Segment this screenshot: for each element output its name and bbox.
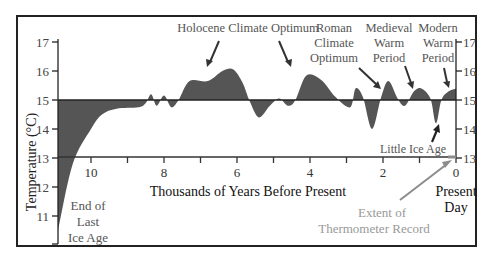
y-axis-label: Temperature (°C) (24, 113, 40, 212)
roman-arrow (359, 68, 376, 84)
roman-label: Roman Climate Optimum (310, 21, 358, 65)
thermometer-label: Extent of Thermometer Record (318, 205, 430, 236)
x-tick-label: 8 (161, 165, 168, 180)
little-ice-age-label: Little Ice Age (380, 142, 446, 156)
little-ice-age-arrow (432, 130, 437, 142)
svg-text:Optimum: Optimum (310, 51, 358, 65)
svg-text:Climate: Climate (314, 36, 354, 50)
y-tick-label: 17 (36, 35, 50, 50)
arrow-head-icon (407, 81, 414, 89)
svg-text:Period: Period (422, 51, 455, 65)
svg-text:Last: Last (77, 214, 100, 229)
y-tick-label-right: 15 (463, 93, 476, 108)
svg-text:Roman: Roman (316, 21, 353, 35)
ice-age-label: End of Last Ice Age (68, 198, 108, 245)
svg-text:Thermometer Record: Thermometer Record (318, 221, 430, 236)
x-tick-label: 2 (380, 165, 387, 180)
arrow-head-icon (285, 59, 292, 67)
x-axis-label: Thousands of Years Before Present (150, 184, 346, 199)
svg-text:Period: Period (373, 51, 406, 65)
holocene-arrow-right (279, 41, 288, 62)
x-tick-label: 0 (453, 165, 460, 180)
svg-text:Day: Day (444, 200, 467, 215)
y-tick-label-right: 14 (463, 122, 477, 137)
y-tick-label: 16 (36, 64, 50, 79)
x-tick-label: 6 (234, 165, 241, 180)
temperature-chart: 17161514131211 1716151413 1086420 Temper… (0, 0, 494, 265)
svg-text:Warm: Warm (423, 36, 454, 50)
present-day-label: Present Day (435, 184, 476, 215)
medieval-arrow (405, 66, 411, 83)
holocene-arrow-left (210, 41, 219, 62)
svg-text:Warm: Warm (374, 36, 405, 50)
y-tick-label: 15 (36, 93, 49, 108)
arrow-head-icon (206, 59, 213, 67)
svg-text:Medieval: Medieval (365, 21, 413, 35)
svg-text:Ice Age: Ice Age (68, 230, 108, 245)
svg-text:Modern: Modern (418, 21, 458, 35)
x-tick-label: 10 (85, 165, 98, 180)
modern-arrow (444, 68, 447, 82)
medieval-label: Medieval Warm Period (365, 21, 413, 65)
y-tick-label-right: 16 (463, 64, 477, 79)
svg-text:End of: End of (70, 198, 106, 213)
svg-text:Extent of: Extent of (358, 205, 407, 220)
x-tick-label: 4 (307, 165, 314, 180)
modern-label: Modern Warm Period (418, 21, 458, 65)
y-ticks-left: 17161514131211 (36, 35, 58, 224)
holocene-label: Holocene Climate Optimum (177, 21, 319, 35)
y-ticks-right: 1716151413 (456, 35, 477, 166)
y-tick-label-right: 13 (463, 151, 476, 166)
y-tick-label-right: 17 (463, 35, 477, 50)
x-ticks: 1086420 (85, 157, 460, 180)
arrow-head-icon (443, 81, 450, 88)
svg-text:Present: Present (435, 184, 476, 199)
